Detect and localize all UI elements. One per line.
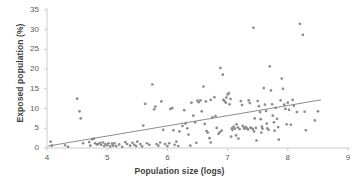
data-point — [78, 110, 81, 113]
data-point — [209, 99, 212, 102]
data-point — [118, 143, 121, 146]
data-point — [203, 123, 206, 126]
data-point — [227, 92, 230, 95]
data-point — [230, 135, 233, 138]
data-point — [195, 142, 198, 145]
y-tick-label: 0 — [23, 144, 39, 152]
y-tick-label: 15 — [23, 85, 39, 93]
data-point — [221, 73, 224, 76]
data-point — [102, 141, 105, 144]
data-point — [314, 119, 317, 122]
data-point — [238, 128, 241, 131]
data-point — [247, 128, 250, 131]
data-point — [107, 142, 110, 145]
data-point — [157, 144, 160, 147]
data-point — [256, 100, 259, 103]
data-point — [231, 129, 234, 132]
data-point — [82, 142, 85, 145]
data-point — [259, 118, 262, 121]
data-point — [115, 145, 118, 148]
data-point — [271, 114, 274, 117]
data-point — [265, 122, 268, 125]
data-point — [273, 129, 276, 132]
x-axis-title: Population size (logs) — [0, 166, 359, 176]
data-point — [151, 83, 154, 86]
data-point — [186, 127, 189, 130]
data-point — [259, 111, 262, 114]
data-point — [153, 108, 156, 111]
data-point — [164, 143, 167, 146]
data-point — [88, 141, 91, 144]
data-point — [291, 99, 294, 102]
data-point — [200, 110, 203, 113]
y-axis-title: Exposed population (%) — [15, 3, 25, 143]
data-point — [141, 145, 144, 148]
data-point — [178, 130, 181, 133]
data-point — [239, 100, 242, 103]
y-tick-label: 5 — [23, 124, 39, 132]
data-point — [279, 99, 282, 102]
data-point-group — [49, 22, 319, 148]
data-point — [255, 139, 258, 142]
data-point — [154, 105, 157, 108]
x-tick-label: 6 — [159, 154, 175, 162]
data-point — [285, 123, 288, 126]
data-point — [213, 96, 216, 99]
data-point — [187, 133, 190, 136]
data-point — [159, 141, 162, 144]
trendline-segment — [48, 100, 321, 146]
x-tick-label: 4 — [39, 154, 55, 162]
data-point — [67, 145, 70, 148]
data-point — [177, 145, 180, 148]
data-point — [192, 114, 195, 117]
data-point — [235, 123, 238, 126]
data-point — [171, 107, 174, 110]
data-point — [288, 108, 291, 111]
data-point — [247, 99, 250, 102]
x-tick-label: 5 — [99, 154, 115, 162]
data-point — [295, 111, 298, 114]
trend-line — [48, 100, 321, 146]
data-point — [190, 101, 193, 104]
data-point — [219, 67, 222, 70]
data-point — [262, 87, 265, 90]
y-tick-label: 10 — [23, 105, 39, 113]
data-point — [89, 144, 92, 147]
data-point — [260, 131, 263, 134]
data-point — [215, 127, 218, 130]
data-point — [253, 130, 256, 133]
y-tick-label: 25 — [23, 45, 39, 53]
scatter-chart: 05101520253035 456789 Population size (l… — [0, 0, 359, 183]
data-point — [142, 124, 145, 127]
data-point — [277, 138, 280, 141]
data-point — [276, 117, 279, 120]
data-point — [277, 126, 280, 129]
data-point — [79, 117, 82, 120]
data-point — [255, 127, 258, 130]
data-point — [270, 89, 273, 92]
data-point — [258, 105, 261, 108]
data-point — [305, 129, 308, 132]
axis-lines — [47, 8, 350, 148]
data-point — [249, 102, 252, 105]
data-point — [175, 140, 178, 143]
data-point — [121, 145, 124, 148]
data-point — [286, 101, 289, 104]
data-point — [208, 137, 211, 140]
data-point — [100, 144, 103, 147]
data-point — [267, 129, 270, 132]
data-point — [224, 101, 227, 104]
y-tick-label: 20 — [23, 65, 39, 73]
data-point — [126, 143, 129, 146]
data-point — [220, 129, 223, 132]
data-point — [160, 100, 163, 103]
data-point — [280, 77, 283, 80]
data-point — [237, 137, 240, 140]
data-point — [284, 108, 287, 111]
data-point — [241, 104, 244, 107]
data-point — [273, 121, 276, 124]
data-point — [264, 103, 267, 106]
data-point — [166, 145, 169, 148]
data-point — [148, 144, 151, 147]
data-point — [205, 100, 208, 103]
